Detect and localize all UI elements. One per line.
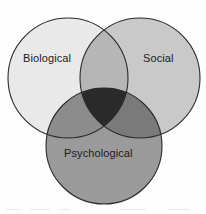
- set-label-psychological: Psychological: [64, 147, 133, 159]
- scan-artifact-mark: [6, 209, 20, 210]
- venn-diagram-canvas: [0, 0, 206, 214]
- set-label-biological: Biological: [23, 52, 71, 64]
- scan-artifact-mark: [120, 209, 146, 210]
- scan-artifact-mark: [60, 209, 70, 210]
- venn-diagram-figure: Biological Social Psychological: [0, 0, 206, 214]
- scan-artifact-mark: [168, 209, 190, 210]
- scan-artifact-mark: [30, 209, 50, 210]
- set-label-social: Social: [143, 52, 174, 64]
